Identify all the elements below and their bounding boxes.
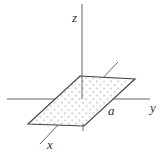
x-axis-label: x: [46, 137, 53, 152]
y-axis-label: y: [148, 100, 156, 115]
coordinate-diagram: z y x a: [0, 0, 164, 155]
z-axis-label: z: [71, 10, 77, 25]
side-length-label: a: [108, 103, 115, 118]
